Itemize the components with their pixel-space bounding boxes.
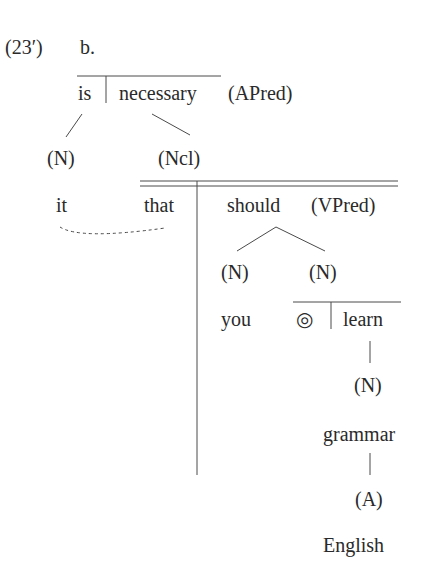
- ncl-complementizer: that: [144, 195, 174, 215]
- root-left-word: is: [78, 83, 91, 103]
- branch-to-ncl: [152, 114, 190, 135]
- branch-to-you: [237, 227, 276, 251]
- branch-to-it: [66, 114, 82, 137]
- clause-pred-label: (VPred): [311, 195, 375, 215]
- root-right-word: necessary: [119, 83, 197, 103]
- double-circle-icon: ◎: [296, 309, 313, 329]
- root-label: (APred): [228, 83, 292, 103]
- grammar-word: grammar: [323, 424, 395, 444]
- example-number: (23′): [5, 37, 43, 57]
- english-category: (A): [355, 489, 383, 509]
- you-word: you: [221, 309, 251, 329]
- grammar-category: (N): [354, 375, 382, 395]
- ncl-category: (Ncl): [158, 148, 200, 168]
- it-category: (N): [47, 148, 75, 168]
- example-sub: b.: [80, 37, 95, 57]
- clause-pred-word: should: [227, 195, 280, 215]
- learn-category: (N): [309, 262, 337, 282]
- learn-word: learn: [343, 309, 383, 329]
- you-category: (N): [221, 262, 249, 282]
- english-word: English: [323, 535, 384, 555]
- it-word: it: [56, 195, 67, 215]
- coreference-dashed-arc: [60, 227, 165, 234]
- branch-to-learn: [276, 227, 325, 251]
